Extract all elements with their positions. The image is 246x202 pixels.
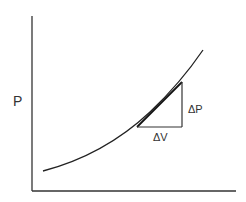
y-axis-label: P	[13, 93, 22, 109]
delta-v-label: ΔV	[153, 131, 168, 143]
pressure-curve	[43, 50, 203, 171]
pv-diagram: P ΔP ΔV	[0, 0, 246, 202]
tangent-segment	[137, 82, 182, 127]
delta-p-label: ΔP	[188, 103, 203, 115]
